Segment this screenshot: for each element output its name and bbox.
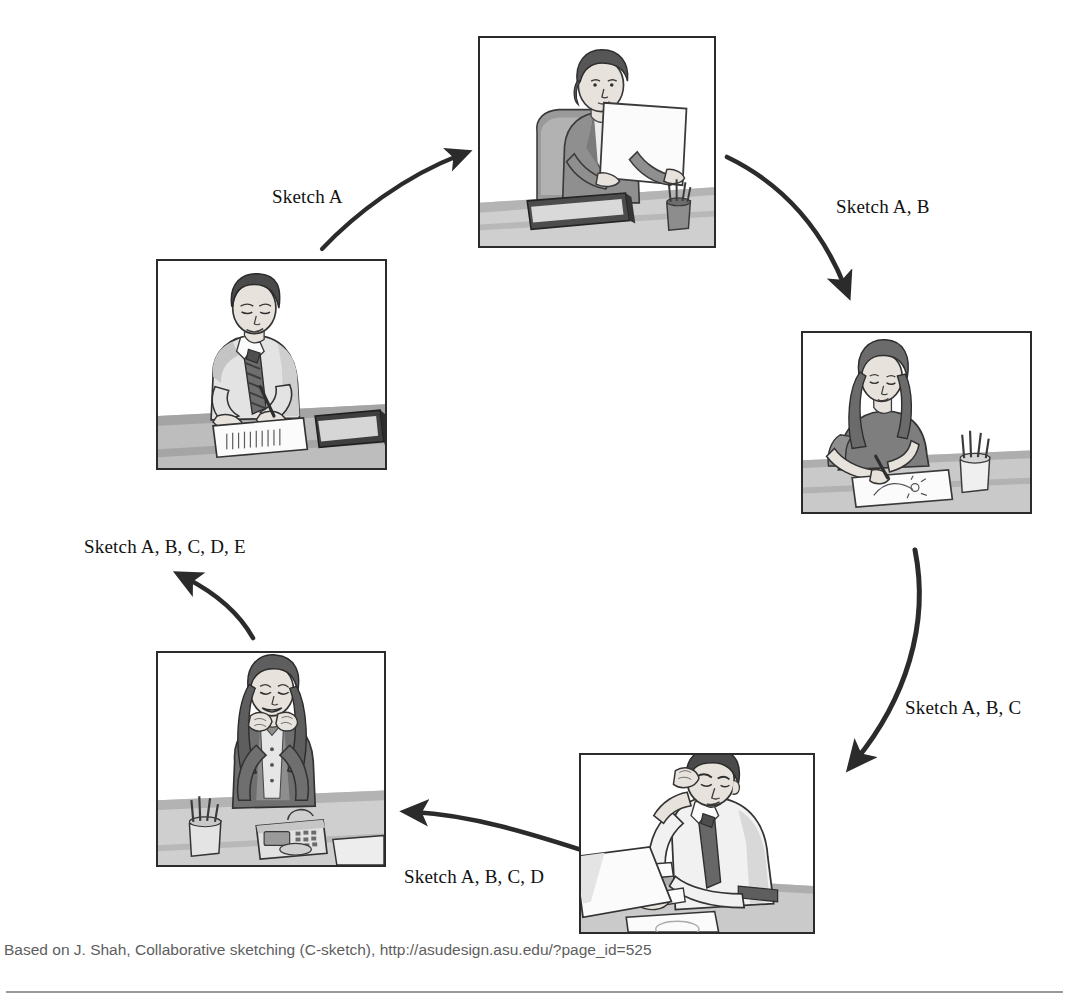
panel-reviewer-top <box>478 36 716 248</box>
arrow-label-sketch-a-b: Sketch A, B <box>836 196 930 218</box>
illustration-reviewer <box>480 38 714 246</box>
diagram-canvas: Sketch A Sketch A, B Sketch A, B, C Sket… <box>0 0 1069 1003</box>
arrow-to-left <box>414 812 594 854</box>
panel-thinker-bottom <box>579 753 815 934</box>
panel-smiling-left-low <box>156 651 386 867</box>
illustration-smiling-woman <box>158 653 384 865</box>
arrow-label-sketch-a-b-c-d: Sketch A, B, C, D <box>404 866 544 888</box>
illustration-sketcher <box>803 333 1030 512</box>
arrow-to-up <box>186 578 253 638</box>
source-caption: Based on J. Shah, Collaborative sketchin… <box>4 941 652 959</box>
arrow-label-sketch-a-b-c: Sketch A, B, C <box>905 697 1021 719</box>
panel-sketcher-right <box>801 331 1032 514</box>
arrow-to-right <box>727 157 845 287</box>
bottom-divider <box>6 991 1063 993</box>
arrow-label-sketch-a: Sketch A <box>272 186 343 208</box>
panel-writer-left-top <box>156 259 387 470</box>
illustration-writer <box>158 261 385 468</box>
arrow-label-sketch-a-b-c-d-e: Sketch A, B, C, D, E <box>84 536 246 558</box>
arrow-to-bottom <box>856 550 919 760</box>
illustration-thinker <box>581 755 813 932</box>
